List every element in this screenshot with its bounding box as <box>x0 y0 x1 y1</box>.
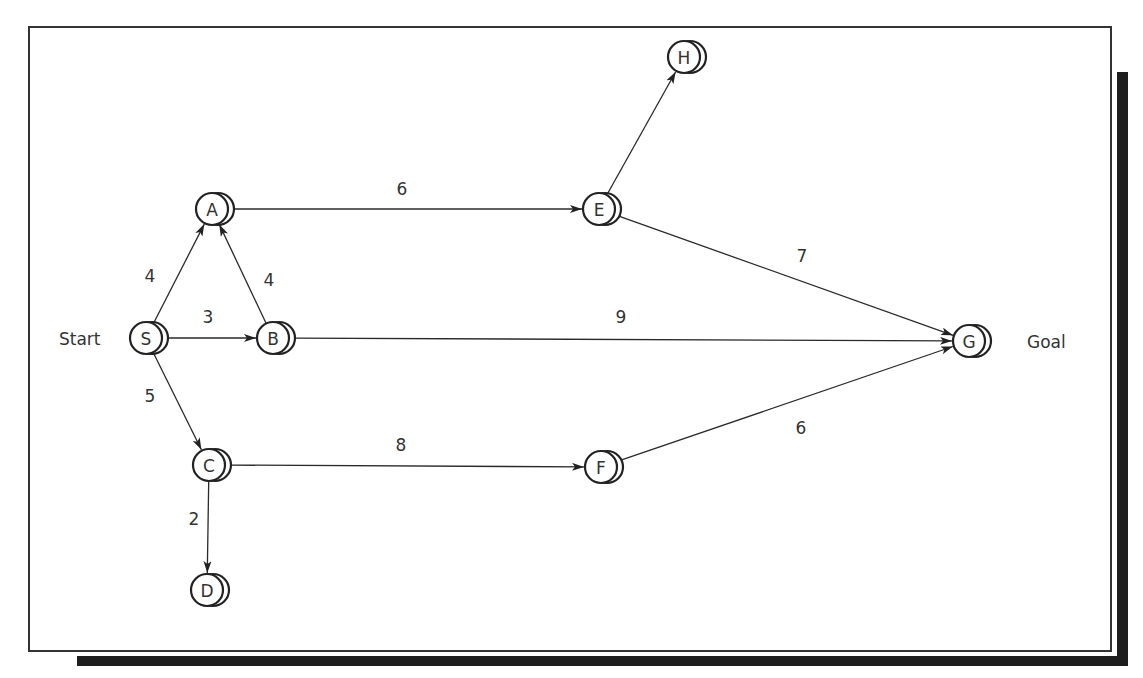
edge-weight-e-g: 7 <box>797 246 808 266</box>
node-label: H <box>678 48 691 68</box>
edge-e-h <box>607 72 676 195</box>
node-b: B <box>257 322 295 354</box>
goal-label: Goal <box>1027 332 1066 352</box>
start-label: Start <box>59 329 101 349</box>
edge-weight-c-d: 2 <box>189 509 200 529</box>
node-f: F <box>585 451 623 483</box>
node-h: H <box>668 41 706 73</box>
node-g: G <box>953 325 991 357</box>
edge-weight-b-g: 9 <box>616 307 627 327</box>
node-label: F <box>596 458 606 478</box>
node-label: A <box>206 200 218 220</box>
edge-weight-a-e: 6 <box>397 179 408 199</box>
node-a: A <box>196 193 234 225</box>
edge-weight-f-g: 6 <box>796 418 807 438</box>
node-label: G <box>962 332 975 352</box>
edge-f-g <box>621 347 953 461</box>
node-label: D <box>200 581 213 601</box>
edge-weight-s-a: 4 <box>145 266 156 286</box>
edge-e-g <box>619 216 953 335</box>
node-d: D <box>191 574 229 606</box>
graph-canvas: 4354679826 SABCDEHFG Start Goal <box>0 0 1143 678</box>
edge-weight-s-c: 5 <box>145 386 156 406</box>
edge-weight-s-b: 3 <box>203 307 214 327</box>
edge-b-g <box>294 338 952 341</box>
nodes-layer: SABCDEHFG <box>130 41 991 606</box>
edge-weight-c-f: 8 <box>396 435 407 455</box>
node-label: S <box>141 329 152 349</box>
node-label: B <box>267 329 279 349</box>
node-e: E <box>583 193 621 225</box>
node-c: C <box>193 449 231 481</box>
edge-weight-b-a: 4 <box>264 270 275 290</box>
node-s: S <box>130 322 168 354</box>
edge-b-a <box>219 224 266 323</box>
edge-s-c <box>153 352 201 450</box>
node-label: E <box>594 200 605 220</box>
edge-c-d <box>207 481 208 573</box>
node-label: C <box>203 456 215 476</box>
edge-s-a <box>153 224 204 324</box>
edge-labels-layer: 4354679826 <box>145 179 808 529</box>
edge-c-f <box>230 465 584 467</box>
